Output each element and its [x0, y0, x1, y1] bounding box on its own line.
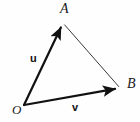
vector-diagram-figure: A B O u v	[0, 0, 140, 122]
vector-v-arrow	[24, 89, 115, 105]
point-label-a: A	[60, 2, 69, 16]
vector-u-arrow	[24, 28, 61, 105]
point-label-o: O	[12, 103, 21, 116]
point-label-b: B	[127, 77, 136, 91]
vector-label-v: v	[72, 102, 78, 113]
segment-a-to-b	[65, 25, 119, 87]
vector-label-u: u	[30, 53, 37, 64]
